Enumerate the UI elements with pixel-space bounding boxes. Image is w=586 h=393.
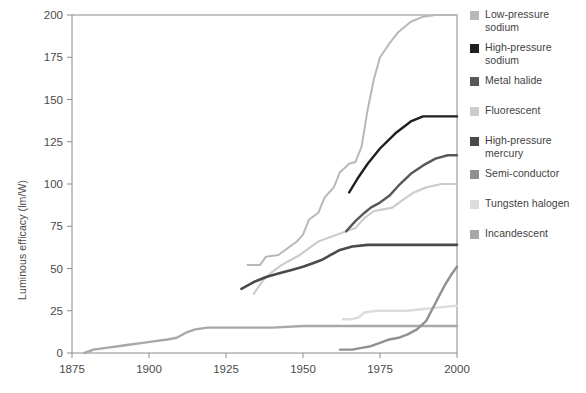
legend-item-label: High-pressure sodium (485, 41, 586, 66)
x-tick-label: 1875 (59, 363, 85, 375)
legend-item[interactable]: Metal halide (470, 74, 586, 96)
legend-item[interactable]: Low-pressure sodium (470, 8, 586, 33)
x-tick-label: 2000 (444, 363, 470, 375)
legend-swatch-icon (470, 77, 479, 86)
chart-figure: Luminous efficacy (lm/W) 025507510012515… (0, 0, 586, 393)
legend-item-label: Semi-conductor (485, 167, 559, 180)
legend-item-label: Metal halide (485, 74, 542, 87)
legend-swatch-icon (470, 137, 479, 146)
y-tick-label: 150 (44, 94, 63, 106)
legend-swatch-icon (470, 200, 479, 209)
legend-item-label: Tungsten halogen (485, 197, 569, 210)
legend-swatch-icon (470, 107, 479, 116)
series-line (241, 245, 457, 289)
y-axis-ticks: 0255075100125150175200 (44, 9, 72, 359)
legend-item[interactable]: High-pressure mercury (470, 134, 586, 159)
series-line (343, 306, 457, 320)
legend-item-label: Incandescent (485, 227, 548, 240)
y-tick-label: 25 (50, 305, 63, 317)
legend-swatch-icon (470, 170, 479, 179)
legend-item-label: Low-pressure sodium (485, 8, 586, 33)
legend-item[interactable]: Semi-conductor (470, 167, 586, 189)
x-axis-ticks: 187519001925195019752000 (59, 353, 470, 375)
legend-swatch-icon (470, 230, 479, 239)
x-tick-label: 1900 (136, 363, 162, 375)
legend-item[interactable]: Tungsten halogen (470, 197, 586, 219)
legend-item[interactable]: Incandescent (470, 227, 586, 249)
x-tick-label: 1975 (367, 363, 393, 375)
legend-item-label: Fluorescent (485, 104, 540, 117)
legend-swatch-icon (470, 11, 479, 20)
y-tick-label: 50 (50, 263, 63, 275)
legend-swatch-icon (470, 44, 479, 53)
y-axis-title: Luminous efficacy (lm/W) (16, 180, 28, 300)
series-line (248, 15, 457, 265)
x-tick-label: 1925 (213, 363, 239, 375)
y-tick-label: 200 (44, 9, 63, 21)
series-line (84, 326, 457, 353)
x-tick-label: 1950 (290, 363, 316, 375)
y-tick-label: 125 (44, 136, 63, 148)
y-tick-label: 175 (44, 51, 63, 63)
y-tick-label: 75 (50, 220, 63, 232)
series-line (254, 184, 457, 294)
legend-item[interactable]: Fluorescent (470, 104, 586, 126)
y-tick-label: 100 (44, 178, 63, 190)
legend-item[interactable]: High-pressure sodium (470, 41, 586, 66)
chart-legend: Low-pressure sodiumHigh-pressure sodiumM… (470, 8, 586, 257)
y-tick-label: 0 (57, 347, 63, 359)
legend-item-label: High-pressure mercury (485, 134, 586, 159)
